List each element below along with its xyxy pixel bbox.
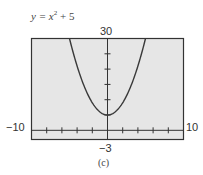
figure-caption: (c) <box>98 157 109 168</box>
graph-window <box>0 0 203 175</box>
